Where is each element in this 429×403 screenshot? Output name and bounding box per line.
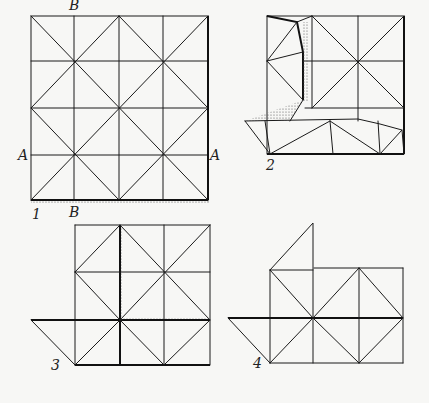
step-1-label-bottom: B bbox=[69, 205, 79, 219]
step-1-label-right: A bbox=[210, 148, 220, 162]
step-2-number: 2 bbox=[266, 158, 275, 172]
step-3-number: 3 bbox=[51, 358, 60, 372]
step-2-figure bbox=[245, 16, 404, 154]
step-1-label-left: A bbox=[18, 148, 28, 162]
step-4-number: 4 bbox=[253, 356, 262, 370]
step-1-number: 1 bbox=[32, 207, 41, 221]
origami-diagram bbox=[0, 0, 429, 403]
step-1-label-top: B bbox=[69, 0, 79, 12]
step-4-figure bbox=[228, 223, 403, 363]
step-1-figure bbox=[31, 16, 210, 203]
step-3-figure bbox=[31, 225, 210, 365]
